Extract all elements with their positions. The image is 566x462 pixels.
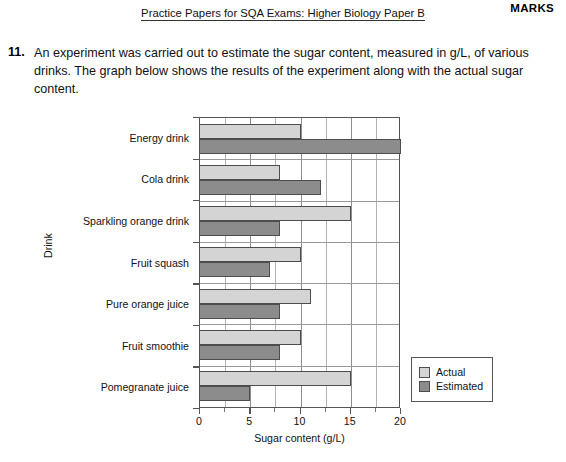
exam-question-page: MARKS Practice Papers for SQA Exams: Hig… — [0, 0, 566, 462]
y-axis-label: Sparkling orange drink — [60, 200, 195, 242]
x-axis-tick-label: 10 — [294, 415, 306, 427]
x-axis-tick-major — [350, 408, 351, 414]
bar-estimated — [200, 221, 280, 236]
y-axis-tick — [193, 200, 200, 201]
y-axis-tick — [193, 366, 200, 367]
bar-group — [200, 242, 399, 283]
question-block: 11. An experiment was carried out to est… — [8, 45, 548, 99]
bar-estimated — [200, 386, 250, 401]
bar-pair — [200, 283, 399, 324]
bar-group — [200, 283, 399, 324]
legend-item-estimated: Estimated — [419, 380, 483, 392]
x-axis-tick-minor — [375, 408, 376, 412]
y-axis-label: Pure orange juice — [60, 283, 195, 325]
y-axis-tick — [193, 408, 200, 409]
chart-legend: ActualEstimated — [411, 357, 493, 402]
bar-estimated — [200, 180, 321, 195]
bar-actual — [200, 206, 351, 221]
x-axis-tick-major — [300, 408, 301, 414]
y-axis-label: Fruit squash — [60, 242, 195, 284]
y-axis-label: Fruit smoothie — [60, 325, 195, 367]
y-axis-label: Cola drink — [60, 159, 195, 201]
x-axis-tick-major — [400, 408, 401, 414]
x-axis-tick-minor — [274, 408, 275, 412]
bar-pair — [200, 201, 399, 242]
bar-estimated — [200, 304, 280, 319]
bar-actual — [200, 165, 280, 180]
bar-pair — [200, 324, 399, 365]
x-axis-tick-label: 20 — [394, 415, 406, 427]
bar-group — [200, 159, 399, 200]
running-head-text: Practice Papers for SQA Exams: Higher Bi… — [141, 7, 425, 21]
bar-group — [200, 201, 399, 242]
x-axis-tick-label: 5 — [246, 415, 252, 427]
bar-actual — [200, 330, 301, 345]
bar-pair — [200, 366, 399, 407]
x-axis-tick-labels: 05101520 — [199, 415, 400, 431]
y-axis-tick — [193, 325, 200, 326]
legend-label: Actual — [436, 366, 465, 378]
x-axis-tick-minor — [325, 408, 326, 412]
bar-estimated — [200, 345, 280, 360]
running-head: Practice Papers for SQA Exams: Higher Bi… — [0, 7, 566, 19]
legend-swatch-estimated-icon — [419, 381, 430, 392]
bar-pair — [200, 159, 399, 200]
bar-actual — [200, 124, 301, 139]
x-axis-tick-minor — [224, 408, 225, 412]
bar-chart: Drink Energy drinkCola drinkSparkling or… — [0, 108, 566, 462]
y-axis-tick — [193, 283, 200, 284]
bar-group — [200, 118, 399, 159]
question-text: An experiment was carried out to estimat… — [34, 45, 534, 99]
bar-actual — [200, 371, 351, 386]
x-axis-tick-label: 15 — [344, 415, 356, 427]
legend-item-actual: Actual — [419, 366, 483, 378]
x-axis-title: Sugar content (g/L) — [199, 432, 400, 444]
plot-area — [199, 117, 400, 408]
y-axis-tick — [193, 117, 200, 118]
bar-actual — [200, 247, 301, 262]
y-axis-tick — [193, 159, 200, 160]
y-axis-category-labels: Energy drinkCola drinkSparkling orange d… — [60, 117, 195, 408]
y-axis-label: Energy drink — [60, 117, 195, 159]
question-number: 11. — [8, 45, 34, 59]
bar-estimated — [200, 139, 401, 154]
legend-swatch-actual-icon — [419, 367, 430, 378]
bar-group — [200, 324, 399, 365]
bar-actual — [200, 289, 311, 304]
bar-group — [200, 366, 399, 407]
bar-pair — [200, 242, 399, 283]
bar-rows — [200, 118, 399, 407]
y-axis-label: Pomegranate juice — [60, 366, 195, 408]
bar-estimated — [200, 262, 270, 277]
y-axis-title: Drink — [42, 233, 54, 258]
x-axis-tick-major — [249, 408, 250, 414]
x-axis-ticks — [199, 408, 400, 414]
bar-pair — [200, 118, 399, 159]
legend-label: Estimated — [436, 380, 483, 392]
x-axis-tick-label: 0 — [196, 415, 202, 427]
y-axis-tick — [193, 242, 200, 243]
